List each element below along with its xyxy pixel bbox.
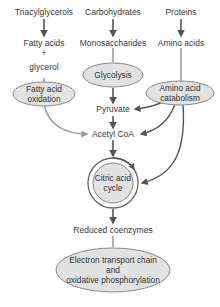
label-proteins: Proteins — [165, 7, 196, 17]
arrow-amino-catabolism-to-pyruvate — [135, 102, 163, 109]
label-fatty-acids: Fatty acids — [23, 38, 64, 48]
fatty-acid-oxidation-line1: Fatty acid — [26, 84, 62, 94]
electron-transport-chain-label: Electron transport chain and oxidative p… — [66, 255, 160, 285]
arrow-amino-catabolism-to-citric-acid-cycle — [142, 104, 183, 183]
label-acetyl-coa: Acetyl CoA — [92, 129, 134, 139]
citric-acid-cycle-line2: cycle — [95, 183, 131, 193]
etc-line2: and — [66, 265, 160, 275]
etc-line1: Electron transport chain — [66, 255, 160, 265]
glycolysis-label: Glycolysis — [94, 70, 131, 80]
amino-acid-catabolism-label: Amino acid catabolism — [159, 83, 200, 103]
arrow-amino-catabolism-to-acetyl-coa — [141, 104, 175, 134]
fatty-acid-oxidation-label: Fatty acid oxidation — [26, 84, 62, 104]
amino-acid-catabolism-line2: catabolism — [159, 93, 200, 103]
citric-acid-cycle-line1: Citric acid — [95, 173, 131, 183]
citric-acid-cycle-label: Citric acid cycle — [95, 173, 131, 193]
label-reduced-coenzymes: Reduced coenzymes — [73, 225, 152, 235]
etc-line3: oxidative phosphorylation — [66, 275, 160, 285]
amino-acid-catabolism-line1: Amino acid — [159, 83, 200, 93]
label-triacylglycerols: Triacylglycerols — [15, 7, 73, 17]
label-pyruvate: Pyruvate — [96, 104, 130, 114]
label-plus: + — [42, 48, 47, 58]
label-monosaccharides: Monosaccharides — [80, 38, 147, 48]
arrow-fatty-acid-oxidation-to-acetyl-coa — [44, 104, 87, 134]
label-glycerol: glycerol — [29, 62, 58, 72]
label-carbohydrates: Carbohydrates — [85, 7, 141, 17]
fatty-acid-oxidation-line2: oxidation — [26, 94, 62, 104]
label-amino-acids: Amino acids — [158, 38, 204, 48]
